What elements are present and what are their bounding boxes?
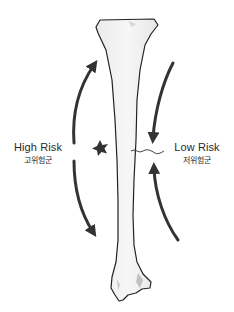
high-risk-label-ko: 고위험군 <box>10 156 66 165</box>
high-risk-label: High Risk 고위험군 <box>10 141 66 165</box>
right-upper-arrow <box>153 63 173 138</box>
bone-outline <box>96 19 158 301</box>
left-lower-arrow <box>74 161 93 232</box>
high-risk-arrows <box>74 65 94 232</box>
low-risk-label: Low Risk 저위험군 <box>168 141 226 165</box>
tibia-bone <box>96 19 158 301</box>
right-lower-arrow <box>154 168 178 240</box>
star-marker-icon <box>92 140 108 156</box>
low-risk-label-ko: 저위험군 <box>168 156 226 165</box>
low-risk-label-en: Low Risk <box>168 141 226 154</box>
left-upper-arrow <box>74 65 94 143</box>
high-risk-label-en: High Risk <box>10 141 66 154</box>
